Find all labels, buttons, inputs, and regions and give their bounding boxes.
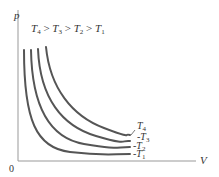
x-axis-label: V (200, 154, 208, 166)
leader-t4 (131, 130, 135, 135)
isotherm-t3 (38, 49, 130, 142)
pv-diagram: p V 0 T4 > T3 > T2 > T1 T4 -T3 -T2 -T1 (0, 0, 219, 177)
isotherm-t4 (46, 47, 130, 135)
y-axis-label: p (13, 9, 20, 21)
origin-label: 0 (9, 163, 14, 174)
temperature-relation: T4 > T3 > T2 > T1 (31, 22, 105, 36)
